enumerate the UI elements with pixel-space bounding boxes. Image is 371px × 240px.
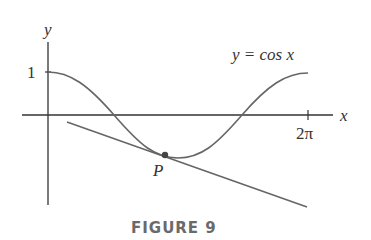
curve-label: y = cos x [230, 45, 294, 64]
tangent-line [67, 122, 307, 207]
x-axis-label: x [339, 106, 348, 125]
point-p-marker [162, 152, 168, 158]
figure-canvas: y x 1 2π y = cos x P FIGURE 9 [0, 0, 371, 240]
curve-label-text: y = cos x [230, 45, 294, 64]
figure-caption: FIGURE 9 [131, 219, 217, 237]
y-axis-label: y [42, 20, 52, 39]
x-tick-label: 2π [296, 124, 314, 143]
y-tick-label: 1 [27, 63, 36, 82]
cosine-tangent-figure: y x 1 2π y = cos x P FIGURE 9 [0, 0, 371, 240]
point-p-label: P [152, 161, 163, 180]
